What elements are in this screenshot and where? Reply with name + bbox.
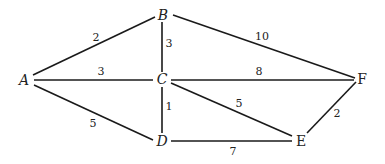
edge-a-d xyxy=(34,85,153,140)
weighted-graph: 2 3 10 3 8 5 1 5 7 2 A B C D E F xyxy=(0,0,385,164)
node-f: F xyxy=(357,71,367,87)
weight-a-b: 2 xyxy=(93,31,100,44)
nodes: A B C D E F xyxy=(17,7,367,149)
node-c: C xyxy=(157,71,168,87)
weight-e-f: 2 xyxy=(334,107,341,120)
edge-b-f xyxy=(173,15,355,78)
node-e: E xyxy=(296,133,306,149)
node-a: A xyxy=(17,72,29,88)
weight-c-f: 8 xyxy=(256,65,263,78)
weight-a-c: 3 xyxy=(98,65,105,78)
node-b: B xyxy=(157,7,168,23)
node-d: D xyxy=(155,133,167,149)
weight-a-d: 5 xyxy=(90,117,97,130)
edge-e-f xyxy=(307,82,356,133)
weight-d-e: 7 xyxy=(230,145,237,158)
edge-c-e xyxy=(171,83,292,136)
weight-b-f: 10 xyxy=(255,30,269,43)
weight-c-e: 5 xyxy=(236,97,243,110)
edges xyxy=(33,15,356,141)
weight-c-d: 1 xyxy=(166,100,173,113)
edge-a-b xyxy=(33,17,155,75)
weight-b-c: 3 xyxy=(166,37,173,50)
